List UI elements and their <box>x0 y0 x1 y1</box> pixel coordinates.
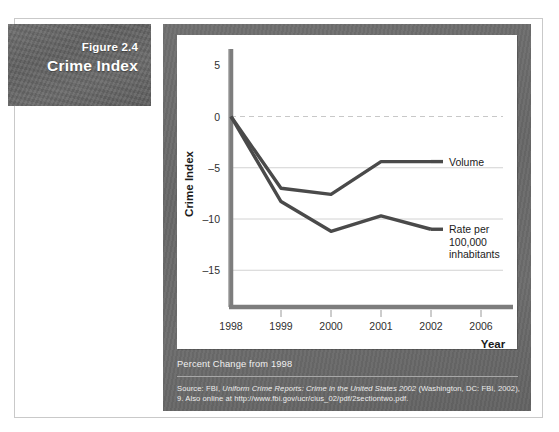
x-axis-title: Year <box>481 338 506 349</box>
figure-page: Figure 2.4 Crime Index 50–5–10–151998199… <box>0 0 559 432</box>
x-tick-label: 1999 <box>269 320 293 332</box>
plot-card: 50–5–10–15199819992000200120022006Crime … <box>177 35 517 349</box>
series-line-volume <box>231 117 431 195</box>
legend-label-rate: inhabitants <box>449 248 500 260</box>
chart-panel: 50–5–10–15199819992000200120022006Crime … <box>163 24 531 411</box>
figure-title: Crime Index <box>8 56 138 76</box>
y-tick-label: –10 <box>202 213 220 225</box>
y-tick-label: –5 <box>208 162 220 174</box>
x-tick-label: 2000 <box>319 320 343 332</box>
y-tick-label: –15 <box>202 264 220 276</box>
y-tick-label: 5 <box>214 59 220 71</box>
caption-note: Percent Change from 1998 <box>177 358 521 370</box>
legend-label-rate: Rate per <box>449 223 490 235</box>
series-line-rate <box>231 117 431 232</box>
legend-label-rate: 100,000 <box>449 236 487 248</box>
y-tick-label: 0 <box>214 111 220 123</box>
source-citation: Source: FBI, Uniform Crime Reports: Crim… <box>177 384 521 405</box>
line-chart: 50–5–10–15199819992000200120022006Crime … <box>177 35 517 349</box>
figure-number: Figure 2.4 <box>8 40 138 55</box>
x-tick-label: 2002 <box>419 320 443 332</box>
figure-header-plate: Figure 2.4 Crime Index <box>8 24 151 106</box>
caption-divider <box>177 376 518 377</box>
x-tick-label: 1998 <box>219 320 243 332</box>
legend-label-volume: Volume <box>449 156 484 168</box>
x-tick-label: 2006 <box>469 320 493 332</box>
y-axis-title: Crime Index <box>183 150 195 216</box>
x-tick-label: 2001 <box>369 320 393 332</box>
source-prefix: Source: FBI, <box>177 384 222 393</box>
source-title-italic: Uniform Crime Reports: Crime in the Unit… <box>222 384 416 393</box>
